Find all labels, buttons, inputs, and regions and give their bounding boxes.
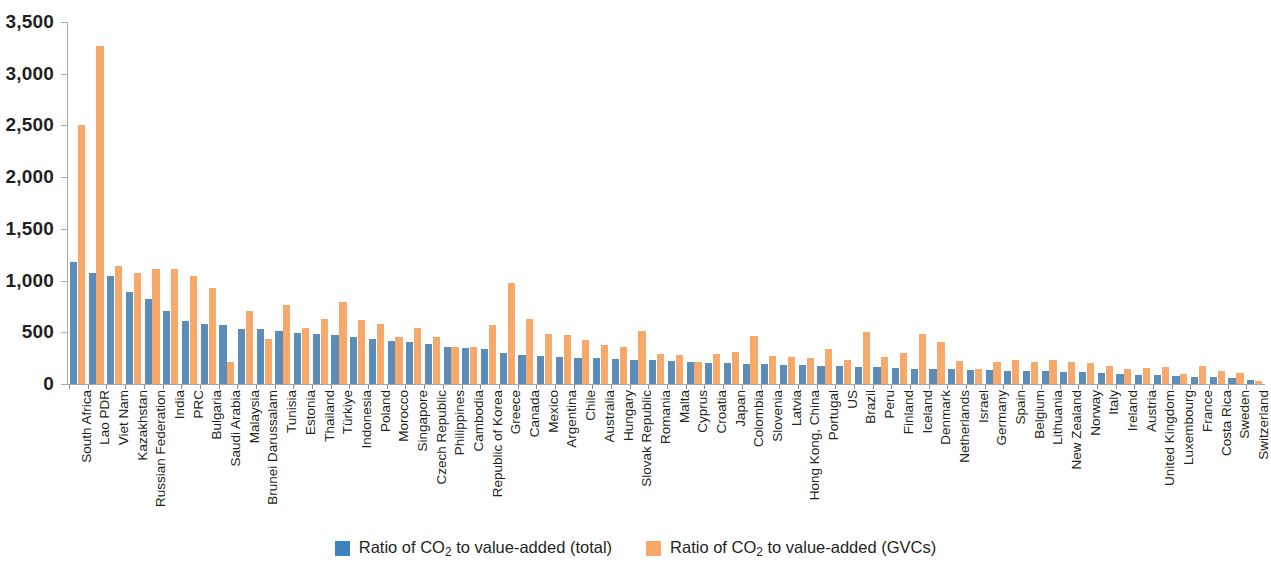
legend-item-gvc[interactable]: Ratio of CO2 to value-added (GVCs)	[646, 538, 936, 559]
bar-total	[369, 339, 376, 385]
bar-gvc	[732, 352, 739, 384]
bar-gvc	[900, 353, 907, 384]
bar-total	[1116, 374, 1123, 384]
x-axis-category-label: Czech Republic	[435, 390, 449, 485]
bar-group	[498, 22, 517, 384]
bar-gvc	[545, 334, 552, 384]
legend-item-total[interactable]: Ratio of CO2 to value-added (total)	[335, 538, 612, 559]
bar-gvc	[1143, 368, 1150, 384]
x-axis-category-label: Poland	[379, 390, 393, 432]
bar-total	[89, 273, 96, 384]
bar-total	[350, 337, 357, 384]
x-axis-tick-mark	[966, 385, 967, 389]
x-axis-category-label: Indonesia	[360, 390, 374, 449]
x-axis-tick-mark	[1153, 385, 1154, 389]
bar-gvc	[582, 340, 589, 384]
bar-total	[163, 311, 170, 384]
y-axis-tick-mark	[61, 177, 67, 178]
bar-group	[1189, 22, 1208, 384]
bar-total	[1210, 377, 1217, 384]
x-axis-category-label: Australia	[603, 390, 617, 443]
bar-group	[517, 22, 536, 384]
y-axis-tick-label: 2,000	[0, 166, 68, 188]
bar-total	[444, 347, 451, 384]
x-axis-category-label: Hungary	[622, 390, 636, 441]
x-axis-category-label: Norway	[1089, 390, 1103, 436]
x-axis-category-label: Slovenia	[771, 390, 785, 442]
x-axis-category-label: Denmark	[939, 390, 953, 445]
y-axis-tick-mark	[61, 332, 67, 333]
bar-group	[1002, 22, 1021, 384]
bar-gvc	[919, 334, 926, 384]
x-axis-tick-mark	[817, 385, 818, 389]
x-axis-category-label: Argentina	[565, 390, 579, 448]
x-axis-category-label: Malta	[678, 390, 692, 423]
x-axis-tick-mark	[1172, 385, 1173, 389]
bar-group	[1245, 22, 1264, 384]
bar-gvc	[1180, 374, 1187, 384]
x-axis-tick-mark	[891, 385, 892, 389]
bar-total	[518, 355, 525, 384]
y-axis-tick-mark	[61, 74, 67, 75]
x-axis-tick-mark	[1041, 385, 1042, 389]
x-axis-category-label: Chile	[584, 390, 598, 421]
x-axis-category-label: Republic of Korea	[491, 390, 505, 497]
bar-total	[257, 329, 264, 384]
x-axis-labels: South AfricaLao PDRViet NamKazakhstanRus…	[68, 390, 1264, 520]
x-axis-category-label: Greece	[509, 390, 523, 434]
y-axis-tick-label: 3,500	[0, 11, 68, 33]
x-axis-tick-mark	[704, 385, 705, 389]
plot-area	[68, 22, 1264, 384]
x-axis-category-label: Israel	[977, 390, 991, 423]
bar-gvc	[302, 328, 309, 384]
bar-group	[965, 22, 984, 384]
bar-gvc	[769, 356, 776, 384]
bar-gvc	[526, 319, 533, 384]
x-axis-tick-mark	[1228, 385, 1229, 389]
bar-gvc	[1049, 360, 1056, 384]
y-axis-tick-mark	[61, 229, 67, 230]
x-axis-category-label: Peru	[883, 390, 897, 419]
bar-total	[219, 325, 226, 384]
x-axis-category-label: Russian Federation	[154, 390, 168, 507]
bar-group	[591, 22, 610, 384]
x-axis-tick-mark	[1060, 385, 1061, 389]
x-axis-tick-mark	[985, 385, 986, 389]
bar-gvc	[807, 358, 814, 384]
bar-total	[1135, 375, 1142, 384]
x-axis-category-label: Canada	[528, 390, 542, 437]
x-axis-tick-mark	[443, 385, 444, 389]
x-axis-tick-mark	[480, 385, 481, 389]
bar-group	[1021, 22, 1040, 384]
bar-group	[778, 22, 797, 384]
bar-group	[946, 22, 965, 384]
x-axis-category-label: Singapore	[416, 390, 430, 452]
bar-total	[313, 334, 320, 384]
x-axis-tick-mark	[1116, 385, 1117, 389]
bar-group	[124, 22, 143, 384]
x-axis-category-label: France	[1201, 390, 1215, 432]
chart-legend: Ratio of CO2 to value-added (total)Ratio…	[0, 538, 1271, 559]
x-axis-tick-mark	[1190, 385, 1191, 389]
x-axis-tick-mark	[779, 385, 780, 389]
bar-group	[1227, 22, 1246, 384]
bar-group	[1040, 22, 1059, 384]
x-axis-tick-mark	[1209, 385, 1210, 389]
bar-group	[423, 22, 442, 384]
bar-total	[1154, 375, 1161, 384]
x-axis-line	[67, 384, 1265, 385]
x-axis-category-label: Viet Nam	[117, 390, 131, 445]
bar-gvc	[750, 336, 757, 384]
bar-group	[1208, 22, 1227, 384]
x-axis-category-label: Brunei Darussalam	[266, 390, 280, 505]
bar-total	[126, 292, 133, 384]
x-axis-tick-mark	[873, 385, 874, 389]
x-axis-tick-mark	[424, 385, 425, 389]
bar-group	[68, 22, 87, 384]
bar-total	[462, 348, 469, 384]
bar-group	[348, 22, 367, 384]
x-axis-tick-mark	[929, 385, 930, 389]
bar-group	[330, 22, 349, 384]
bar-gvc	[414, 328, 421, 384]
x-axis-category-label: Lao PDR	[98, 390, 112, 445]
